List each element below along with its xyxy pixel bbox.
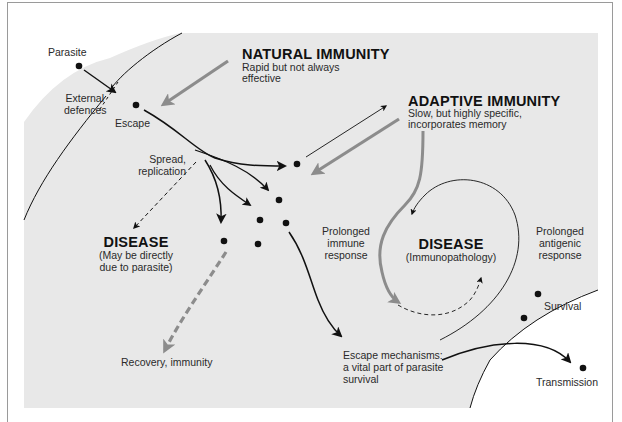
prolonged-antigenic-line-1: Prolonged [530,225,590,237]
parasite-dot [283,220,290,227]
prolonged-immune-line-3: response [316,249,376,261]
prolonged-immune-line-2: immune [316,237,376,249]
parasite-label: Parasite [48,46,87,58]
natural-immunity-subtitle-2: effective [242,73,281,85]
parasite-dot [255,241,262,248]
transmission-dot [580,365,587,372]
disease-immuno-title: DISEASE [396,237,506,252]
prolonged-antigenic-response-label: Prolonged antigenic response [530,225,590,261]
prolonged-immune-response-label: Prolonged immune response [316,225,376,261]
external-defences-label: External defences [64,92,104,116]
parasite-dot [76,63,83,70]
spread-line-1: Spread, [136,153,186,165]
spread-replication-label: Spread, replication [136,153,186,177]
escape-mechanisms-line-2: a vital part of parasite [343,361,443,373]
parasite-dot [257,217,264,224]
escape-mechanisms-line-1: Escape mechanisms: [343,349,443,361]
disease-direct-title: DISEASE [86,235,186,250]
external-defences-line-1: External [64,92,104,104]
external-defences-line-2: defences [64,104,104,116]
disease-direct-subtitle-2: due to parasite) [86,262,186,274]
prolonged-immune-line-1: Prolonged [316,225,376,237]
spread-line-2: replication [136,165,186,177]
survival-dot [521,315,528,322]
parasite-dot [276,197,283,204]
natural-immunity-title: NATURAL IMMUNITY [242,47,390,62]
adaptive-immunity-subtitle-2: incorporates memory [408,119,507,131]
survival-label: Survival [544,300,581,312]
disease-direct-block: DISEASE (May be directly due to parasite… [86,235,186,273]
disease-immunopathology-block: DISEASE (Immunopathology) [396,237,506,264]
parasite-dot [294,161,301,168]
prolonged-antigenic-line-2: antigenic [530,237,590,249]
disease-immuno-subtitle: (Immunopathology) [396,252,506,264]
recovery-immunity-label: Recovery, immunity [121,356,212,368]
disease-direct-subtitle-1: (May be directly [86,250,186,262]
escape-mechanisms-label: Escape mechanisms: a vital part of paras… [343,349,443,385]
transmission-label: Transmission [536,376,598,388]
escape-dot [133,102,140,109]
parasite-dot [221,238,228,245]
escape-mechanisms-line-3: survival [343,373,443,385]
survival-dot [535,291,542,298]
prolonged-antigenic-line-3: response [530,249,590,261]
escape-label: Escape [115,117,150,129]
